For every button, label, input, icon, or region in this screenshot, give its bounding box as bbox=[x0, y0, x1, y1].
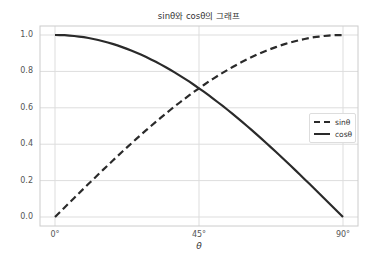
dashed-line-icon bbox=[314, 121, 330, 123]
legend-label-sin: sinθ bbox=[335, 118, 350, 127]
solid-line-icon bbox=[314, 133, 330, 135]
y-tick-label: 0.4 bbox=[3, 139, 33, 148]
legend-item-sin: sinθ bbox=[314, 117, 350, 127]
y-tick-label: 0.2 bbox=[3, 176, 33, 185]
x-tick-label: 45° bbox=[184, 230, 214, 239]
legend-label-cos: cosθ bbox=[335, 130, 352, 139]
y-tick-label: 0.8 bbox=[3, 66, 33, 75]
x-axis-label: θ bbox=[184, 241, 214, 251]
y-tick-label: 0.6 bbox=[3, 103, 33, 112]
legend: sinθ cosθ bbox=[309, 113, 356, 143]
y-tick-label: 1.0 bbox=[3, 30, 33, 39]
x-tick-label: 0° bbox=[40, 230, 70, 239]
y-tick-label: 0.0 bbox=[3, 212, 33, 221]
legend-item-cos: cosθ bbox=[314, 129, 352, 139]
x-tick-label: 90° bbox=[328, 230, 358, 239]
